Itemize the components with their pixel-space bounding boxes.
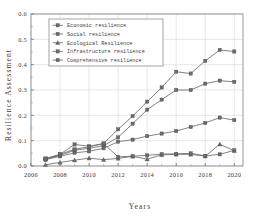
x-tick-label: 2006 bbox=[24, 171, 38, 178]
data-point-marker bbox=[204, 59, 207, 62]
data-point-marker bbox=[175, 129, 178, 132]
data-point-marker bbox=[87, 145, 90, 148]
chart-legend: Economic resilienceSocial resilienceEcol… bbox=[49, 19, 163, 66]
data-point-marker bbox=[160, 152, 163, 155]
data-point-marker bbox=[131, 138, 134, 141]
data-point-marker bbox=[131, 154, 134, 157]
data-point-marker bbox=[218, 79, 221, 82]
data-point-marker bbox=[116, 155, 119, 158]
legend-label: Economic resilience bbox=[67, 23, 126, 29]
data-point-marker bbox=[56, 50, 59, 53]
data-point-marker bbox=[160, 98, 163, 101]
data-point-marker bbox=[218, 116, 221, 119]
series-4 bbox=[44, 142, 236, 162]
data-point-marker bbox=[189, 72, 192, 75]
data-point-marker bbox=[175, 88, 178, 91]
data-point-marker bbox=[56, 32, 59, 35]
data-point-marker bbox=[56, 24, 59, 27]
data-point-marker bbox=[56, 58, 59, 61]
x-tick-labels: 20062008201020122014201620182020 bbox=[24, 171, 241, 178]
data-point-marker bbox=[146, 134, 149, 137]
x-tick-label: 2014 bbox=[140, 171, 154, 178]
y-tick-label: 0.6 bbox=[18, 10, 27, 17]
data-point-marker bbox=[146, 154, 149, 157]
data-point-marker bbox=[204, 154, 207, 157]
data-point-marker bbox=[116, 128, 119, 131]
data-point-marker bbox=[218, 48, 221, 51]
data-point-marker bbox=[131, 122, 134, 125]
data-point-marker bbox=[160, 86, 163, 89]
data-point-marker bbox=[44, 157, 47, 160]
data-point-marker bbox=[233, 118, 236, 121]
x-tick-label: 2018 bbox=[198, 171, 212, 178]
data-point-marker bbox=[189, 88, 192, 91]
x-axis-title: Years bbox=[129, 202, 151, 211]
data-point-marker bbox=[233, 50, 236, 53]
data-point-marker bbox=[189, 125, 192, 128]
data-point-marker bbox=[87, 150, 90, 153]
data-point-marker bbox=[73, 143, 76, 146]
data-point-marker bbox=[116, 140, 119, 143]
data-point-marker bbox=[233, 149, 236, 152]
data-point-marker bbox=[218, 142, 222, 146]
y-axis-title: Resilience Assessment bbox=[4, 49, 13, 141]
data-point-marker bbox=[102, 147, 105, 150]
data-point-marker bbox=[175, 70, 178, 73]
legend-label: Infrastructure resilience bbox=[67, 49, 145, 55]
data-point-marker bbox=[73, 151, 76, 154]
y-tick-labels: 0.00.10.20.30.40.50.6 bbox=[18, 10, 27, 169]
legend-label: Social resilience bbox=[67, 32, 120, 38]
data-point-marker bbox=[131, 114, 134, 117]
resilience-line-chart: 20062008201020122014201620182020 0.00.10… bbox=[0, 0, 254, 216]
x-tick-label: 2016 bbox=[169, 171, 183, 178]
chart-canvas: 20062008201020122014201620182020 0.00.10… bbox=[0, 0, 254, 216]
data-point-marker bbox=[73, 148, 76, 151]
data-point-marker bbox=[146, 108, 149, 111]
x-tick-label: 2020 bbox=[227, 171, 241, 178]
y-tick-label: 0.0 bbox=[18, 162, 27, 169]
data-point-marker bbox=[116, 136, 119, 139]
x-tick-label: 2012 bbox=[111, 171, 125, 178]
y-tick-label: 0.5 bbox=[18, 36, 27, 43]
data-point-marker bbox=[204, 82, 207, 85]
y-tick-label: 0.1 bbox=[18, 137, 27, 144]
y-tick-label: 0.3 bbox=[18, 86, 27, 93]
series-1 bbox=[44, 79, 236, 161]
x-tick-label: 2010 bbox=[82, 171, 96, 178]
series-line bbox=[46, 81, 235, 159]
data-point-marker bbox=[160, 132, 163, 135]
data-point-marker bbox=[102, 142, 105, 145]
legend-item-4[interactable]: Infrastructure resilience bbox=[53, 49, 145, 55]
legend-label: Comprehensive resilience bbox=[67, 58, 142, 64]
y-tick-label: 0.4 bbox=[18, 61, 27, 68]
data-point-marker bbox=[58, 153, 61, 156]
data-point-marker bbox=[175, 152, 178, 155]
data-point-marker bbox=[233, 80, 236, 83]
y-tick-label: 0.2 bbox=[18, 112, 27, 119]
data-point-marker bbox=[146, 100, 149, 103]
x-tick-label: 2008 bbox=[53, 171, 67, 178]
data-point-marker bbox=[204, 121, 207, 124]
data-point-marker bbox=[189, 152, 192, 155]
legend-label: Ecological Resilience bbox=[67, 41, 132, 47]
data-point-marker bbox=[218, 153, 221, 156]
